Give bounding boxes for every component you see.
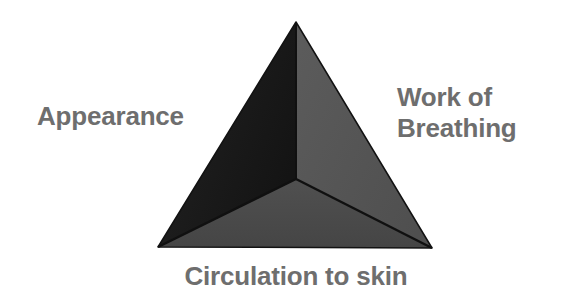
- triangle-graphic: [0, 0, 564, 305]
- label-work-of-breathing: Work of Breathing: [397, 82, 517, 143]
- label-work-of-breathing-line2: Breathing: [397, 113, 517, 144]
- label-circulation-to-skin: Circulation to skin: [0, 262, 564, 292]
- label-work-of-breathing-line1: Work of: [397, 82, 517, 113]
- label-appearance: Appearance: [37, 102, 184, 132]
- diagram-canvas: Appearance Work of Breathing Circulation…: [0, 0, 564, 305]
